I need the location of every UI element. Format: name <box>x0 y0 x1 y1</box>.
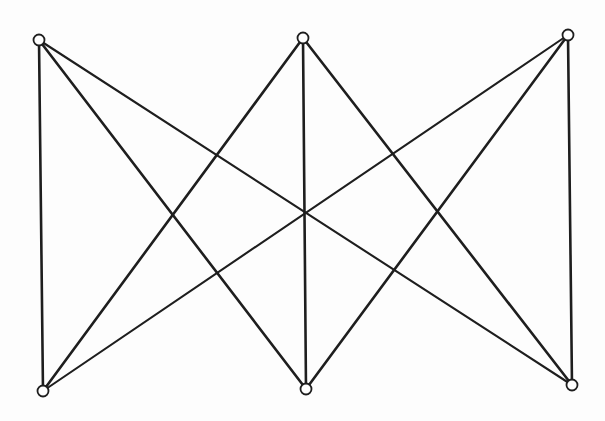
edge-b-d <box>43 38 303 391</box>
edge-a-d <box>39 40 43 391</box>
vertex-f <box>567 380 578 391</box>
k33-graph <box>0 0 605 421</box>
graph-canvas <box>0 0 605 421</box>
vertex-e <box>301 384 312 395</box>
edge-c-f <box>568 35 572 385</box>
vertex-c <box>563 30 574 41</box>
edge-group <box>39 35 572 391</box>
vertex-a <box>34 35 45 46</box>
vertex-d <box>38 386 49 397</box>
edge-c-e <box>306 35 568 389</box>
vertex-b <box>298 33 309 44</box>
